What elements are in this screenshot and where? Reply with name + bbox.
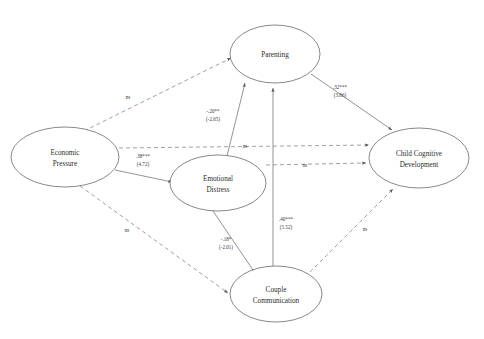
edge-label-emotional-couple-tvalue: (-2.01) bbox=[219, 244, 233, 251]
node-label-child-cognitive-line1: Child Cognitive bbox=[396, 150, 442, 158]
path-diagram-canvas: ns ns .38*** (4.72) ns -.20** (-2.65) ns… bbox=[0, 0, 484, 339]
edge-emotional-to-couple bbox=[213, 211, 255, 273]
edge-label-emotional-to-child-cognitive: ns bbox=[303, 162, 308, 168]
node-ellipse-economic-pressure bbox=[11, 127, 119, 187]
edge-label-parenting-ccd-coef: .32*** bbox=[333, 84, 347, 90]
edge-label-ep-to-parenting: ns bbox=[126, 94, 131, 100]
edge-label-ep-to-couple: ns bbox=[125, 227, 130, 233]
node-label-economic-pressure-line1: Economic bbox=[50, 149, 79, 157]
edge-emotional-to-child-cognitive bbox=[266, 163, 366, 165]
edge-label-ep-to-child-cognitive: ns bbox=[243, 143, 248, 149]
edge-label-couple-to-child-cognitive: ns bbox=[363, 226, 368, 232]
edge-label-couple-parenting-coef: .40*** bbox=[279, 216, 293, 222]
node-label-couple-communication-line1: Couple bbox=[266, 286, 287, 294]
node-label-parenting: Parenting bbox=[261, 51, 289, 59]
node-label-child-cognitive-line2: Development bbox=[400, 161, 439, 169]
edge-couple-to-child-cognitive bbox=[305, 189, 393, 277]
edge-parenting-to-child-cognitive bbox=[311, 74, 392, 130]
edge-label-ep-emotional-coef: .38*** bbox=[136, 153, 150, 159]
node-label-emotional-distress-line2: Distress bbox=[206, 186, 229, 194]
edge-label-emotional-parenting-tvalue: (-2.65) bbox=[206, 116, 220, 123]
edge-label-couple-parenting-tvalue: (5.52) bbox=[280, 224, 293, 231]
node-couple-communication[interactable]: Couple Communication bbox=[230, 266, 322, 322]
node-child-cognitive-development[interactable]: Child Cognitive Development bbox=[369, 128, 469, 188]
edge-label-ep-emotional-tvalue: (4.72) bbox=[137, 161, 150, 168]
node-emotional-distress[interactable]: Emotional Distress bbox=[170, 155, 266, 211]
path-diagram-svg: ns ns .38*** (4.72) ns -.20** (-2.65) ns… bbox=[0, 0, 484, 339]
edge-label-emotional-parenting-coef: -.20** bbox=[206, 108, 220, 114]
edge-label-parenting-ccd-tvalue: (3.86) bbox=[334, 92, 347, 99]
node-ellipse-couple-communication bbox=[230, 266, 322, 322]
node-label-couple-communication-line2: Communication bbox=[253, 297, 300, 305]
node-parenting[interactable]: Parenting bbox=[230, 25, 320, 83]
edge-ep-to-emotional-distress bbox=[115, 170, 172, 182]
node-ellipse-emotional-distress bbox=[170, 155, 266, 211]
node-economic-pressure[interactable]: Economic Pressure bbox=[11, 127, 119, 187]
node-label-emotional-distress-line1: Emotional bbox=[203, 175, 233, 183]
edge-label-emotional-couple-coef: -.18* bbox=[221, 236, 232, 242]
node-ellipse-child-cognitive-development bbox=[369, 128, 469, 188]
node-label-economic-pressure-line2: Pressure bbox=[53, 160, 77, 168]
